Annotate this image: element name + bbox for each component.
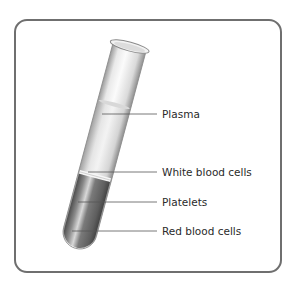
label-plasma: Plasma xyxy=(162,108,200,120)
test-tube-illustration xyxy=(0,0,290,289)
label-red-blood-cells: Red blood cells xyxy=(162,225,241,237)
label-platelets: Platelets xyxy=(162,196,207,208)
label-white-blood-cells: White blood cells xyxy=(162,166,252,178)
